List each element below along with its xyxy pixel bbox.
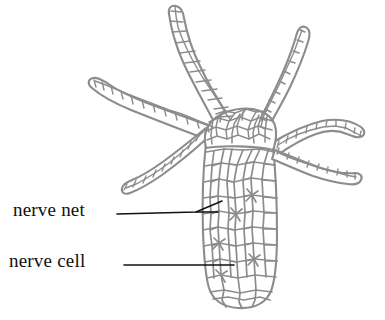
tentacle-right-outline [272, 120, 364, 156]
nerve-net-label: nerve net [13, 199, 85, 221]
hydra-nerve-net-diagram [0, 0, 385, 320]
hydra-organism [89, 6, 365, 308]
nerve-cell-label: nerve cell [9, 250, 85, 272]
body-column-outline [203, 143, 277, 308]
